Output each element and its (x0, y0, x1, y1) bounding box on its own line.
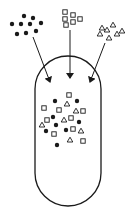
dot-particle (75, 99, 79, 103)
triangle-particle (73, 108, 79, 113)
dot-particle (15, 32, 19, 36)
triangles-arrow-icon (90, 43, 105, 82)
triangle-particle (61, 117, 67, 122)
dots-group (10, 14, 43, 36)
dot-particle (22, 14, 26, 18)
dot-particle (24, 31, 28, 35)
squares-group (63, 10, 82, 27)
dot-particle (77, 120, 81, 124)
square-particle (42, 106, 46, 110)
triangle-particle (67, 137, 73, 142)
square-particle (64, 23, 68, 27)
dot-particle (19, 22, 23, 26)
triangle-particle (39, 122, 45, 127)
triangle-particle (106, 35, 112, 40)
triangle-particle (78, 128, 84, 133)
dot-particle (55, 143, 59, 147)
square-particle (71, 20, 75, 24)
triangle-particle (64, 101, 70, 106)
mixture-group (39, 93, 85, 147)
dot-particle (10, 22, 14, 26)
dot-particle (44, 129, 48, 133)
square-particle (71, 127, 75, 131)
square-particle (81, 109, 85, 113)
triangles-group (97, 22, 125, 40)
triangle-particle (110, 22, 116, 27)
dot-particle (31, 16, 35, 20)
square-particle (63, 17, 67, 21)
triangle-particle (114, 31, 120, 36)
dot-particle (54, 123, 58, 127)
square-particle (52, 132, 56, 136)
dot-particle (28, 22, 32, 26)
square-particle (81, 139, 85, 143)
dot-particle (51, 115, 55, 119)
square-particle (45, 118, 49, 122)
square-particle (67, 93, 71, 97)
triangle-particle (97, 31, 103, 36)
square-particle (71, 13, 75, 17)
dots-arrow-icon (33, 37, 50, 82)
square-particle (63, 10, 67, 14)
mixing-diagram (0, 0, 135, 219)
square-particle (78, 17, 82, 21)
triangle-particle (119, 28, 125, 33)
square-particle (69, 116, 73, 120)
dot-particle (64, 128, 68, 132)
dot-particle (53, 99, 57, 103)
square-particle (57, 108, 61, 112)
dot-particle (39, 21, 43, 25)
triangle-particle (99, 25, 105, 30)
dot-particle (34, 29, 38, 33)
